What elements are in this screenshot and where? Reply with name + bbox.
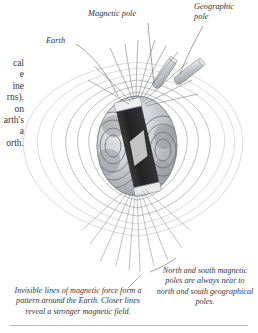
caption-field-lines: Invisible lines of magnetic force form a… [8,286,148,317]
magnetic-axis-rod-icon [151,56,178,90]
label-earth: Earth [46,36,65,46]
label-magnetic-pole: Magnetic pole [88,9,136,19]
caption-poles: North and south magnetic poles are alway… [156,266,254,308]
label-geographic-pole: Geographic pole [194,2,234,21]
figure-page: y cal e ine rns). on arth's a orth. [0,0,258,333]
footer-rule [10,325,248,326]
